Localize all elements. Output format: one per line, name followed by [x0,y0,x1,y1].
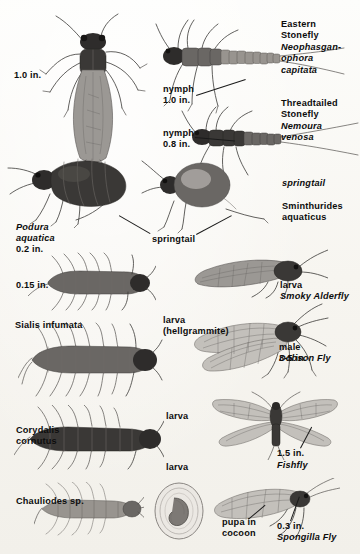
caption-sminthurides-size: Sminthurides aquaticus [282,201,343,224]
figure-spongillafly-larva [34,482,144,536]
caption-threadtailed-stonefly: Threadtailed Stonefly [281,98,338,121]
figure-hellgrammite-larva [18,322,163,398]
caption-sminthurides-sci: springtail [282,178,325,189]
figure-cocoon [148,480,210,542]
caption-eastern-stonefly: Eastern Stonefly [281,19,319,42]
caption-spongilla-fly: 0.3 in. [277,521,304,532]
figure-dobsonfly-adult [190,300,330,390]
caption-smoky-alderfly: larva [280,280,302,291]
caption-spongilla-fly-sci: Spongilla Fly [277,532,337,543]
caption-spongillafly-larva: Chauliodes sp. [16,496,84,507]
caption-dobsonfly-male-size: larva (hellgrammite) [163,315,229,338]
figure-adult-stonefly [22,12,162,172]
caption-eastern-stonefly-sci: Neophasgan- ophora capitata [281,42,341,76]
caption-fishfly-sci: Fishfly [277,460,308,471]
figure-podura-springtail [6,150,156,228]
caption-hellgrammite-larva: Sialis infumata [15,320,83,331]
caption-podura-sci: Podura aquatica [16,222,55,245]
figure-fishfly-adult [210,390,340,460]
caption-fishfly: 1.5 in. [277,448,304,459]
caption-alderfly-larva: 0.15 in. [16,280,49,291]
caption-fishfly-larva-size: larva [166,411,188,422]
caption-nymph-1: nymph 1.0 in. [163,84,194,107]
caption-nymph-2: nymph 0.8 in. [163,128,194,151]
caption-spongillafly-size: pupa in cocoon [222,517,256,540]
caption-dobson-fly-sci: Dobson Fly [279,353,331,364]
figure-sminthurides-springtail [140,155,270,235]
caption-adult-stonefly-size: 1.0 in. [14,70,41,81]
insect-identification-plate: 1.0 in. [0,0,360,554]
caption-fishfly-larva: Corydalis cornutus [16,425,60,448]
caption-pupa-in-cocoon: larva [166,462,188,473]
caption-threadtailed-stonefly-sci: Nemoura venosa [281,121,322,144]
